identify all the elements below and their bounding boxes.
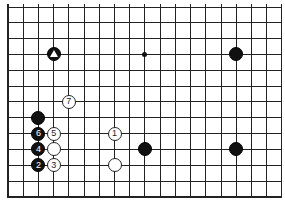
grid-line-horizontal	[7, 181, 282, 182]
black-stone	[229, 142, 243, 156]
grid-line-horizontal	[7, 196, 282, 198]
move-number: 2	[36, 161, 41, 170]
move-number: 4	[36, 145, 41, 154]
grid-line-horizontal	[7, 38, 282, 39]
go-board: 7651423	[0, 0, 285, 205]
white-stone-1: 1	[108, 127, 122, 141]
move-number: 6	[36, 129, 41, 138]
grid-line-horizontal	[7, 70, 282, 71]
black-stone	[47, 47, 61, 61]
grid-line-horizontal	[7, 86, 282, 87]
move-number: 1	[112, 129, 117, 138]
hoshi-point	[142, 52, 147, 57]
grid-line-horizontal	[7, 7, 282, 8]
triangle-marker-icon	[50, 50, 58, 57]
white-stone	[47, 142, 61, 156]
grid-line-horizontal	[7, 22, 282, 23]
black-stone-4: 4	[31, 142, 45, 156]
black-stone	[229, 47, 243, 61]
black-stone	[138, 142, 152, 156]
move-number: 7	[66, 97, 71, 106]
move-number: 3	[51, 161, 56, 170]
black-stone-2: 2	[31, 158, 45, 172]
black-stone-6: 6	[31, 127, 45, 141]
white-stone-7: 7	[62, 95, 76, 109]
white-stone-5: 5	[47, 127, 61, 141]
white-stone	[108, 158, 122, 172]
grid-line-horizontal	[7, 101, 282, 102]
grid-line-horizontal	[7, 117, 282, 118]
white-stone-3: 3	[47, 158, 61, 172]
black-stone	[31, 111, 45, 125]
move-number: 5	[51, 129, 56, 138]
